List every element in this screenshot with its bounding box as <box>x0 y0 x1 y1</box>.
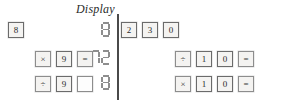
key-equals[interactable]: = <box>238 76 254 92</box>
display-readout-left-2 <box>60 50 110 68</box>
key-0[interactable]: 0 <box>217 76 233 92</box>
seven-segment-value <box>90 50 110 68</box>
key-divide[interactable]: ÷ <box>35 76 51 92</box>
seven-segment-value <box>100 75 110 93</box>
display-label-left: Display <box>76 2 115 17</box>
panel-divider <box>117 14 119 100</box>
display-readout-left-3 <box>60 75 110 93</box>
key-1[interactable]: 1 <box>196 51 212 67</box>
seven-segment-value <box>100 22 110 40</box>
panel-left: Display 8 × 9 = ÷ 9 <box>0 0 118 102</box>
key-multiply[interactable]: × <box>35 51 51 67</box>
key-equals[interactable]: = <box>238 51 254 67</box>
key-2[interactable]: 2 <box>121 22 137 38</box>
key-multiply[interactable]: × <box>175 76 191 92</box>
key-1[interactable]: 1 <box>196 76 212 92</box>
keystroke-row: × 1 0 = <box>175 76 254 92</box>
key-3[interactable]: 3 <box>142 22 158 38</box>
display-readout-left-1 <box>60 22 110 40</box>
key-8[interactable]: 8 <box>8 22 24 38</box>
calculator-keystroke-figure: Display 8 × 9 = ÷ 9 Display <box>0 0 299 102</box>
keystroke-row: 8 <box>8 22 24 38</box>
key-divide[interactable]: ÷ <box>175 51 191 67</box>
keystroke-row: 2 3 0 <box>121 22 179 38</box>
key-0[interactable]: 0 <box>217 51 233 67</box>
keystroke-row: ÷ 1 0 = <box>175 51 254 67</box>
panel-right: Display 2 3 0 ÷ 1 0 = × 1 0 = <box>120 0 299 102</box>
key-0[interactable]: 0 <box>163 22 179 38</box>
